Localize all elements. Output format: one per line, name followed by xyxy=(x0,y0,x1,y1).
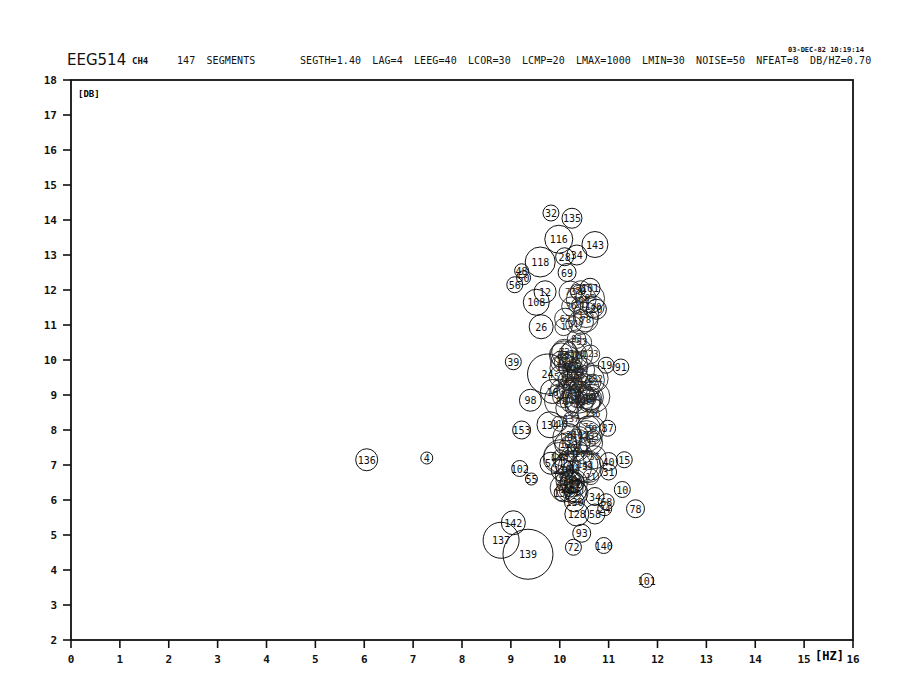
svg-text:36: 36 xyxy=(566,301,577,311)
svg-text:40: 40 xyxy=(603,457,615,468)
svg-text:18: 18 xyxy=(44,74,57,87)
svg-text:16: 16 xyxy=(846,653,860,666)
scatter-plot: 23456789101112131415161718 0123456789101… xyxy=(0,0,903,698)
svg-text:15: 15 xyxy=(618,455,630,466)
svg-text:28: 28 xyxy=(559,252,571,263)
svg-text:11: 11 xyxy=(602,653,616,666)
svg-text:72: 72 xyxy=(567,542,579,553)
svg-text:78: 78 xyxy=(629,504,641,515)
svg-text:10: 10 xyxy=(44,354,57,367)
svg-text:13: 13 xyxy=(700,653,713,666)
svg-text:139: 139 xyxy=(519,549,537,560)
svg-text:136: 136 xyxy=(358,455,376,466)
svg-text:15: 15 xyxy=(44,179,57,192)
data-point: 78 xyxy=(627,500,645,518)
svg-text:55: 55 xyxy=(525,474,537,485)
svg-text:129: 129 xyxy=(575,397,591,407)
data-point: 39 xyxy=(505,354,521,370)
data-point: 98 xyxy=(519,389,541,411)
svg-text:7: 7 xyxy=(50,459,57,472)
y-axis-label: [DB] xyxy=(78,89,100,99)
data-point: 87 xyxy=(600,420,616,436)
svg-text:12: 12 xyxy=(651,653,664,666)
svg-text:16: 16 xyxy=(44,144,58,157)
svg-text:69: 69 xyxy=(561,268,573,279)
data-point: 139 xyxy=(503,529,553,579)
data-point: 69 xyxy=(558,264,576,282)
svg-text:10: 10 xyxy=(616,485,628,496)
svg-text:101: 101 xyxy=(638,576,656,587)
svg-text:32: 32 xyxy=(545,208,557,219)
data-point: 91 xyxy=(613,359,629,375)
svg-text:58: 58 xyxy=(589,509,601,520)
svg-text:56: 56 xyxy=(509,280,521,291)
data-point: 31 xyxy=(601,464,617,480)
svg-text:118: 118 xyxy=(531,257,549,268)
svg-text:102: 102 xyxy=(511,464,529,475)
svg-text:12: 12 xyxy=(44,284,57,297)
svg-text:128: 128 xyxy=(568,509,586,520)
svg-text:5: 5 xyxy=(312,653,319,666)
svg-text:14: 14 xyxy=(44,214,58,227)
svg-text:3: 3 xyxy=(50,599,57,612)
svg-text:15: 15 xyxy=(798,653,811,666)
svg-text:13: 13 xyxy=(44,249,57,262)
svg-text:91: 91 xyxy=(615,362,627,373)
y-axis: 23456789101112131415161718 xyxy=(44,74,71,647)
svg-text:32: 32 xyxy=(572,437,583,447)
svg-text:153: 153 xyxy=(513,425,531,436)
data-point: 19 xyxy=(598,357,614,373)
data-point: 56 xyxy=(507,277,523,293)
svg-text:6: 6 xyxy=(361,653,368,666)
svg-text:143: 143 xyxy=(586,240,604,251)
svg-text:12: 12 xyxy=(560,439,572,450)
data-point: 143 xyxy=(582,232,608,258)
data-point: 32 xyxy=(543,205,559,221)
svg-text:135: 135 xyxy=(563,213,581,224)
svg-text:24: 24 xyxy=(542,369,554,380)
svg-text:98: 98 xyxy=(524,395,536,406)
svg-text:87: 87 xyxy=(602,423,614,434)
data-point: 4 xyxy=(421,452,433,464)
svg-text:20: 20 xyxy=(590,304,602,315)
data-point: 136 xyxy=(356,449,378,471)
svg-text:8: 8 xyxy=(50,424,57,437)
data-point: 153 xyxy=(513,421,531,439)
svg-text:1: 1 xyxy=(117,653,124,666)
svg-text:7: 7 xyxy=(410,653,417,666)
data-point: 135 xyxy=(562,208,582,228)
svg-text:11: 11 xyxy=(44,319,58,332)
svg-text:2: 2 xyxy=(50,634,57,647)
svg-text:76: 76 xyxy=(583,422,594,432)
data-point: 118 xyxy=(525,247,555,277)
svg-text:4: 4 xyxy=(263,653,270,666)
svg-text:4: 4 xyxy=(50,564,57,577)
svg-text:26: 26 xyxy=(535,322,547,333)
data-point: 26 xyxy=(529,315,553,339)
svg-text:39: 39 xyxy=(507,357,519,368)
data-points: 3213511614334281184850566912101108202639… xyxy=(356,205,656,588)
x-axis: 012345678910111213141516 xyxy=(68,640,860,666)
x-axis-label: [HZ] xyxy=(815,649,844,663)
svg-text:116: 116 xyxy=(550,234,568,245)
svg-text:6: 6 xyxy=(50,494,57,507)
svg-text:14: 14 xyxy=(749,653,763,666)
svg-text:10: 10 xyxy=(553,653,566,666)
svg-text:17: 17 xyxy=(44,109,57,122)
plot-frame xyxy=(71,80,853,640)
svg-text:4: 4 xyxy=(424,453,430,464)
svg-text:16: 16 xyxy=(546,387,558,398)
data-point: 55 xyxy=(525,473,537,485)
svg-text:9: 9 xyxy=(50,389,57,402)
data-point: 137 xyxy=(483,522,519,558)
svg-text:8: 8 xyxy=(459,653,466,666)
svg-text:52: 52 xyxy=(588,377,599,387)
svg-text:3: 3 xyxy=(214,653,221,666)
svg-text:0: 0 xyxy=(68,653,75,666)
svg-text:19: 19 xyxy=(600,360,612,371)
data-point: 101 xyxy=(638,574,656,588)
svg-text:101: 101 xyxy=(581,283,599,294)
data-point: 72 xyxy=(565,539,581,555)
svg-text:93: 93 xyxy=(571,334,582,344)
svg-text:108: 108 xyxy=(527,297,545,308)
